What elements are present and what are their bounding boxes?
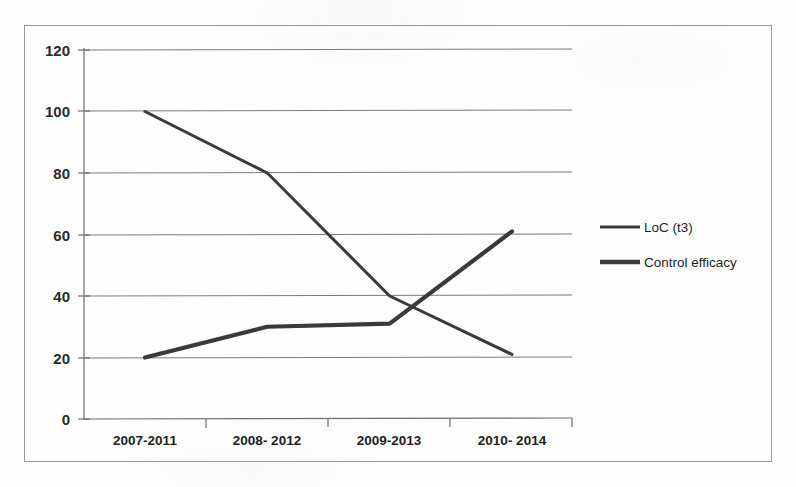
x-category-label-3: 2009-2013: [357, 433, 422, 448]
y-tick-label-20: 20: [53, 350, 70, 367]
gridline-80: [84, 172, 572, 173]
y-tick-label-60: 60: [53, 227, 70, 244]
x-axis: [84, 418, 572, 428]
series-line-control-efficacy: [145, 231, 512, 357]
gridline-40: [84, 295, 572, 296]
y-tick-label-40: 40: [53, 288, 70, 305]
x-axis-category-labels: 2007-2011 2008- 2012 2009-2013 2010- 201…: [113, 433, 547, 448]
line-chart: 120 100 80 60 40 20 0 2007-2011 2008- 20…: [0, 0, 796, 487]
y-tick-label-120: 120: [45, 42, 70, 59]
y-axis: [78, 48, 90, 420]
x-category-label-2: 2008- 2012: [233, 433, 301, 448]
gridline-100: [84, 110, 572, 111]
legend: LoC (t3) Control efficacy: [600, 220, 737, 270]
gridline-120: [84, 49, 572, 50]
gridline-20: [84, 357, 572, 358]
x-category-label-4: 2010- 2014: [478, 433, 547, 448]
legend-label-control-efficacy: Control efficacy: [644, 255, 737, 270]
x-category-label-1: 2007-2011: [113, 433, 177, 448]
y-tick-label-80: 80: [53, 165, 70, 182]
y-tick-label-0: 0: [62, 411, 70, 428]
legend-label-loc-t3: LoC (t3): [644, 220, 693, 235]
y-axis-tick-labels: 120 100 80 60 40 20 0: [45, 42, 70, 428]
gridlines: [84, 49, 572, 358]
y-tick-label-100: 100: [45, 103, 70, 120]
series-line-loc-t3: [145, 112, 512, 355]
